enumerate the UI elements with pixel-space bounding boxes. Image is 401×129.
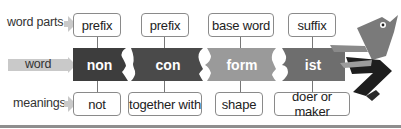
word-piece-form: form [211, 48, 273, 81]
meaning-box: not [73, 92, 121, 116]
meaning-box: doer or maker [274, 92, 350, 116]
bottom-rule [0, 125, 401, 128]
meaning-box: shape [215, 92, 263, 116]
word-piece-non: non [73, 48, 126, 81]
meaning-box: together with [128, 92, 202, 116]
word-piece-ist: ist [285, 48, 341, 81]
word-piece-con: con [135, 48, 201, 81]
